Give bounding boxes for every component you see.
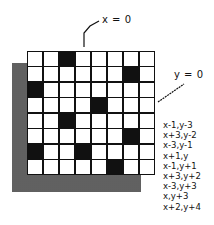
offset-item: x+3,y-2 [163,130,201,140]
y-axis-leader-line [158,84,184,102]
offset-list: x-1,y-3x+3,y-2x-3,y-1x+1,yx-1,y+1x+3,y+2… [163,120,201,212]
y-zero-label: y = 0 [174,69,204,80]
offset-item: x+3,y+2 [163,171,201,181]
x-axis-leader-line [84,21,99,47]
offset-item: x,y+3 [163,191,201,201]
x-zero-label: x = 0 [102,14,132,25]
offset-item: x-3,y-1 [163,140,201,150]
offset-item: x+1,y [163,151,201,161]
offset-item: x-1,y+1 [163,161,201,171]
offset-item: x+2,y+4 [163,202,201,212]
offset-item: x-3,y+3 [163,181,201,191]
offset-item: x-1,y-3 [163,120,201,130]
